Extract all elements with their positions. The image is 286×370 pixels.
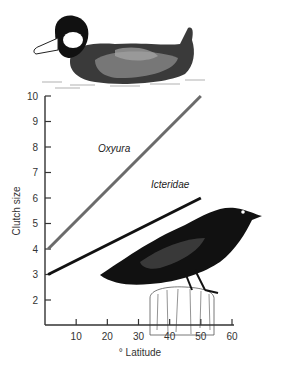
y-tick-label: 10 bbox=[27, 91, 39, 102]
y-axis-title: Clutch size bbox=[11, 186, 22, 235]
blackbird-illustration bbox=[100, 208, 262, 335]
series-labels: OxyuraIcteridae bbox=[98, 143, 190, 190]
y-tick-label: 6 bbox=[32, 193, 38, 204]
x-axis-title: ° Latitude bbox=[119, 347, 162, 358]
ruddy-duck-illustration bbox=[34, 16, 205, 88]
series-line-oxyura bbox=[48, 96, 201, 249]
x-tick-label: 40 bbox=[164, 331, 176, 342]
clutch-size-latitude-chart: 2345678910 102030405060 Clutch size ° La… bbox=[0, 0, 286, 370]
x-tick-label: 60 bbox=[226, 331, 238, 342]
x-tick-label: 50 bbox=[195, 331, 207, 342]
y-tick-label: 7 bbox=[32, 167, 38, 178]
y-tick-label: 2 bbox=[32, 295, 38, 306]
series-label-icteridae: Icteridae bbox=[151, 179, 190, 190]
y-tick-label: 3 bbox=[32, 269, 38, 280]
y-axis-ticks: 2345678910 bbox=[27, 91, 51, 306]
y-tick-label: 9 bbox=[32, 116, 38, 127]
y-tick-label: 4 bbox=[32, 244, 38, 255]
x-tick-label: 20 bbox=[102, 331, 114, 342]
x-tick-label: 30 bbox=[133, 331, 145, 342]
x-tick-label: 10 bbox=[71, 331, 83, 342]
y-tick-label: 8 bbox=[32, 142, 38, 153]
series-label-oxyura: Oxyura bbox=[98, 143, 131, 154]
y-tick-label: 5 bbox=[32, 218, 38, 229]
